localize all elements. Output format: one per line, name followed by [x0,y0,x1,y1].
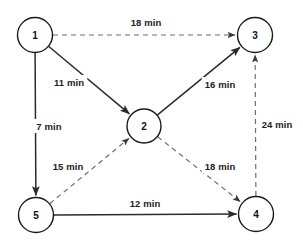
node-label-4: 4 [253,209,259,220]
edge-5-to-4 [54,214,237,215]
node-label-3: 3 [252,30,258,41]
node-1[interactable]: 1 [18,18,53,53]
edge-label-1-3: 18 min [131,17,162,28]
node-4[interactable]: 4 [239,197,274,232]
node-5[interactable]: 5 [19,198,54,233]
node-label-1: 1 [32,30,38,41]
edge-label-2-4: 18 min [205,161,236,172]
edge-label-5-2: 15 min [53,161,84,172]
node-label-2: 2 [141,121,147,132]
node-3[interactable]: 3 [238,18,273,53]
network-graph: 12345 18 min11 min7 min16 min24 min15 mi… [0,0,303,248]
diagram-canvas: 12345 18 min11 min7 min16 min24 min15 mi… [0,0,303,248]
node-label-5: 5 [33,210,39,221]
edge-4-to-3 [255,55,256,196]
edge-label-4-3: 24 min [262,119,293,130]
edge-label-1-5: 7 min [36,121,61,132]
edge-label-5-4: 12 min [130,198,161,209]
edge-label-1-2: 11 min [54,77,84,88]
node-2[interactable]: 2 [127,109,161,143]
edge-label-2-3: 16 min [205,79,236,90]
